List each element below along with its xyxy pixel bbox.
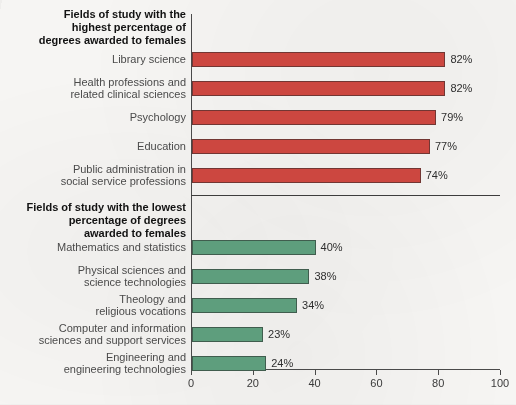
- bar-value-label: 79%: [441, 110, 463, 125]
- category-label-column: Fields of study with thehighest percenta…: [0, 0, 186, 405]
- category-label-line: religious vocations: [0, 305, 186, 318]
- x-axis-tick: [438, 370, 439, 375]
- bar: [192, 356, 266, 371]
- group-divider-line: [191, 195, 500, 196]
- bar-value-label: 82%: [450, 81, 472, 96]
- bar: [192, 269, 309, 284]
- category-label-line: Physical sciences and: [0, 264, 186, 277]
- group-header-lowest: Fields of study with the lowestpercentag…: [0, 201, 186, 240]
- category-label: Mathematics and statistics: [0, 241, 186, 254]
- category-label-line: Library science: [0, 53, 186, 66]
- bar: [192, 110, 436, 125]
- group-header-highest: Fields of study with thehighest percenta…: [0, 8, 186, 47]
- category-label-line: Public administration in: [0, 163, 186, 176]
- bar-value-label: 82%: [450, 52, 472, 67]
- bar-chart-figure: Fields of study with thehighest percenta…: [0, 0, 516, 405]
- category-label: Psychology: [0, 111, 186, 124]
- category-label-line: sciences and support services: [0, 334, 186, 347]
- group-header-line: degrees awarded to females: [0, 34, 186, 47]
- category-label-line: related clinical sciences: [0, 88, 186, 101]
- category-label-line: Computer and information: [0, 322, 186, 335]
- category-label-line: engineering technologies: [0, 363, 186, 376]
- group-header-line: percentage of degrees: [0, 214, 186, 227]
- category-label: Computer and informationsciences and sup…: [0, 322, 186, 347]
- category-label-line: social service professions: [0, 175, 186, 188]
- x-axis-tick-label: 0: [188, 377, 194, 389]
- bar-value-label: 38%: [314, 269, 336, 284]
- bar: [192, 139, 430, 154]
- category-label: Engineering andengineering technologies: [0, 351, 186, 376]
- x-axis-tick: [376, 370, 377, 375]
- bar: [192, 52, 445, 67]
- bar: [192, 168, 421, 183]
- bar: [192, 240, 316, 255]
- bar-value-label: 74%: [426, 168, 448, 183]
- group-header-line: awarded to females: [0, 227, 186, 240]
- group-header-line: Fields of study with the lowest: [0, 201, 186, 214]
- category-label: Library science: [0, 53, 186, 66]
- category-label-line: Theology and: [0, 293, 186, 306]
- plot-area: 82%82%79%77%74%40%38%34%23%24%0204060801…: [191, 0, 500, 369]
- x-axis-tick: [315, 370, 316, 375]
- category-label-line: Mathematics and statistics: [0, 241, 186, 254]
- bar-value-label: 40%: [321, 240, 343, 255]
- bar-value-label: 77%: [435, 139, 457, 154]
- category-label-line: Engineering and: [0, 351, 186, 364]
- x-axis-tick-label: 100: [491, 377, 509, 389]
- bar-value-label: 23%: [268, 327, 290, 342]
- category-label: Public administration insocial service p…: [0, 163, 186, 188]
- category-label-line: Health professions and: [0, 76, 186, 89]
- x-axis-tick: [500, 370, 501, 375]
- x-axis-tick: [253, 370, 254, 375]
- category-label: Health professions andrelated clinical s…: [0, 76, 186, 101]
- category-label-line: Psychology: [0, 111, 186, 124]
- category-label: Physical sciences andscience technologie…: [0, 264, 186, 289]
- group-header-line: highest percentage of: [0, 21, 186, 34]
- x-axis-tick-label: 60: [370, 377, 382, 389]
- bar: [192, 81, 445, 96]
- category-label-line: Education: [0, 140, 186, 153]
- x-axis-tick-label: 40: [308, 377, 320, 389]
- group-header-line: Fields of study with the: [0, 8, 186, 21]
- bar-value-label: 34%: [302, 298, 324, 313]
- bar-value-label: 24%: [271, 356, 293, 371]
- x-axis-tick-label: 20: [247, 377, 259, 389]
- category-label-line: science technologies: [0, 276, 186, 289]
- category-label: Theology andreligious vocations: [0, 293, 186, 318]
- bar: [192, 298, 297, 313]
- x-axis-tick-label: 80: [432, 377, 444, 389]
- bar: [192, 327, 263, 342]
- y-axis-line: [191, 14, 192, 369]
- x-axis-tick: [191, 370, 192, 375]
- category-label: Education: [0, 140, 186, 153]
